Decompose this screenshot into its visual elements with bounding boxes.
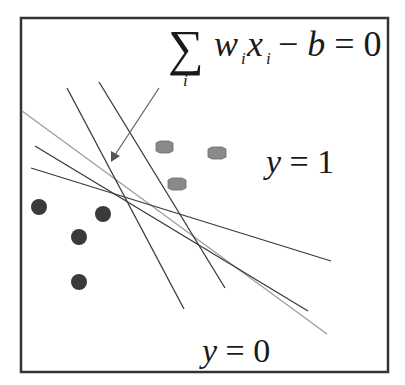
sigma-subscript: i [183, 71, 188, 90]
negative-point [71, 229, 87, 245]
input-symbol: x [246, 24, 263, 64]
positive-point [168, 178, 186, 190]
positive-point [156, 141, 173, 153]
input-subscript: i [266, 49, 271, 68]
separator-line [67, 88, 184, 309]
diagram-frame [21, 18, 388, 372]
positive-class-label: y = 1 [263, 143, 334, 180]
negative-point [95, 206, 111, 222]
hyperplane-equation: ∑ i w i x i − b = 0 [168, 20, 382, 90]
negative-points [31, 199, 111, 290]
positive-point [208, 147, 226, 159]
equation-rest: − b = 0 [278, 24, 382, 64]
pointer-arrow [111, 88, 159, 162]
weight-symbol: w [214, 24, 238, 64]
negative-point [31, 199, 47, 215]
positive-points [156, 141, 226, 190]
weight-subscript: i [241, 49, 246, 68]
sigma-symbol: ∑ [168, 20, 204, 76]
arrow-head-icon [111, 151, 120, 162]
negative-class-label: y = 0 [199, 332, 270, 369]
diagram-canvas: ∑ i w i x i − b = 0 y = 1 y = [0, 0, 405, 385]
negative-point [71, 274, 87, 290]
separator-lines [22, 82, 331, 334]
